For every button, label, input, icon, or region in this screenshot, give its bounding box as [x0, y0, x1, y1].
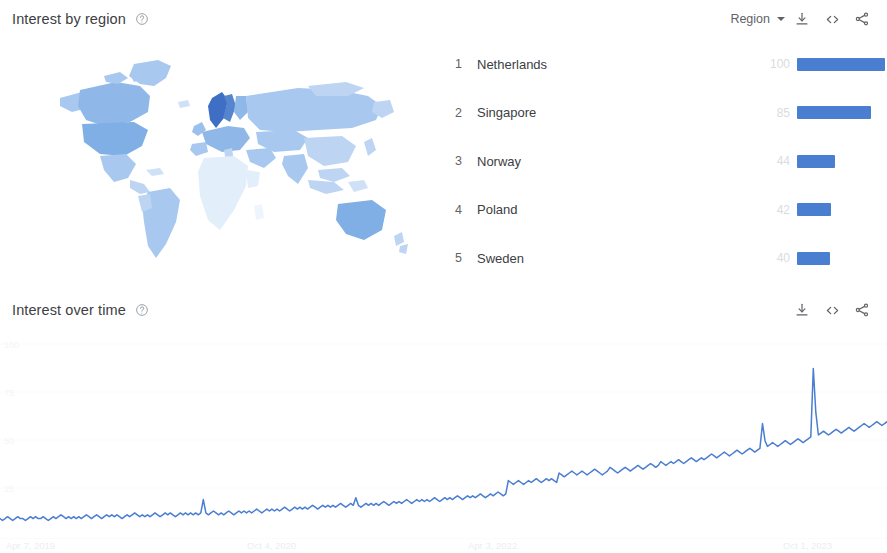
x-axis-tick: Apr 3, 2022 — [468, 540, 517, 551]
x-axis-tick: Oct 1, 2023 — [783, 540, 832, 551]
region-bar-fill — [797, 106, 871, 119]
y-axis-tick: 100 — [4, 340, 19, 350]
rank-number: 3 — [455, 154, 477, 168]
region-name: Singapore — [477, 105, 766, 120]
y-axis-ticks: 100755025 — [4, 340, 19, 494]
table-row[interactable]: 5 Sweden 40 — [455, 234, 887, 283]
y-axis-tick: 25 — [4, 484, 14, 494]
region-header: Interest by region Region — [0, 0, 887, 38]
embed-code-icon[interactable] — [817, 4, 847, 34]
chevron-down-icon — [777, 17, 785, 21]
region-bar-fill — [797, 203, 831, 216]
share-icon[interactable] — [847, 4, 877, 34]
region-name: Sweden — [477, 251, 766, 266]
rank-number: 4 — [455, 203, 477, 217]
table-row[interactable]: 3 Norway 44 — [455, 137, 887, 186]
region-bar-track — [797, 252, 885, 265]
table-row[interactable]: 2 Singapore 85 — [455, 89, 887, 138]
region-bar-track — [797, 155, 885, 168]
region-body: 1 Netherlands 100 2 Singapore 85 3 Norwa… — [0, 38, 887, 288]
x-axis-tick: Apr 7, 2019 — [6, 540, 55, 551]
region-bar-track — [797, 58, 885, 71]
region-ranked-list: 1 Netherlands 100 2 Singapore 85 3 Norwa… — [455, 38, 887, 288]
help-circle-icon[interactable] — [135, 303, 149, 317]
table-row[interactable]: 1 Netherlands 100 — [455, 40, 887, 89]
axis-rule — [0, 538, 887, 539]
region-bar-track — [797, 203, 885, 216]
rank-number: 5 — [455, 251, 477, 265]
map-landmasses — [60, 60, 408, 258]
interest-over-time-panel: Interest over time — [0, 290, 887, 553]
trend-line — [0, 369, 887, 521]
region-value: 85 — [766, 106, 790, 120]
time-header-tools — [787, 295, 877, 325]
table-row[interactable]: 4 Poland 42 — [455, 186, 887, 235]
rank-number: 2 — [455, 106, 477, 120]
region-title: Interest by region — [12, 11, 126, 27]
help-circle-icon[interactable] — [135, 12, 149, 26]
time-title: Interest over time — [12, 302, 126, 318]
region-name: Poland — [477, 202, 766, 217]
region-header-tools: Region — [724, 4, 877, 34]
chart-gridlines — [0, 344, 887, 488]
region-bar-fill — [797, 252, 830, 265]
region-bar-fill — [797, 58, 885, 71]
trend-chart[interactable]: 100755025 Note Apr 7, 2019 Oct 4, 2020 A… — [0, 330, 887, 553]
share-icon[interactable] — [847, 295, 877, 325]
region-value: 44 — [766, 154, 790, 168]
embed-code-icon[interactable] — [817, 295, 847, 325]
y-axis-tick: 75 — [4, 388, 14, 398]
region-value: 100 — [766, 57, 790, 71]
region-name: Netherlands — [477, 57, 766, 72]
time-header: Interest over time — [0, 290, 887, 330]
region-bar-track — [797, 106, 885, 119]
y-axis-tick: 50 — [4, 436, 14, 446]
region-name: Norway — [477, 154, 766, 169]
download-icon[interactable] — [787, 4, 817, 34]
rank-number: 1 — [455, 57, 477, 71]
region-value: 42 — [766, 203, 790, 217]
region-bar-fill — [797, 155, 835, 168]
world-choropleth-map[interactable] — [0, 38, 455, 288]
x-axis: Apr 7, 2019 Oct 4, 2020 Apr 3, 2022 Oct … — [0, 538, 887, 553]
region-type-selector[interactable]: Region — [724, 8, 787, 30]
region-value: 40 — [766, 251, 790, 265]
download-icon[interactable] — [787, 295, 817, 325]
interest-by-region-panel: Interest by region Region — [0, 0, 887, 288]
x-axis-tick: Oct 4, 2020 — [247, 540, 296, 551]
region-selector-label: Region — [730, 12, 770, 26]
